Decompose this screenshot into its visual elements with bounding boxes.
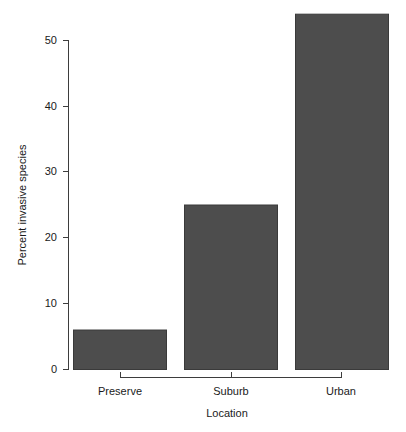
- bar-suburb: [185, 205, 278, 370]
- x-axis-title: Location: [206, 407, 248, 419]
- bar-urban: [296, 14, 389, 369]
- x-tick-label-preserve: Preserve: [98, 385, 142, 397]
- bar-chart-figure: 0 10 20 30 40 50 Percent invasive specie…: [0, 0, 406, 432]
- x-tick-label-urban: Urban: [326, 385, 356, 397]
- y-tick-label-0: 0: [51, 363, 57, 375]
- y-tick-label-40: 40: [45, 100, 57, 112]
- chart-canvas: 0 10 20 30 40 50 Percent invasive specie…: [0, 0, 406, 432]
- x-tick-label-suburb: Suburb: [213, 385, 248, 397]
- y-tick-label-30: 30: [45, 165, 57, 177]
- y-tick-label-20: 20: [45, 231, 57, 243]
- y-axis-title: Percent invasive species: [16, 144, 28, 266]
- y-tick-label-50: 50: [45, 34, 57, 46]
- bar-preserve: [74, 330, 167, 369]
- y-tick-label-10: 10: [45, 297, 57, 309]
